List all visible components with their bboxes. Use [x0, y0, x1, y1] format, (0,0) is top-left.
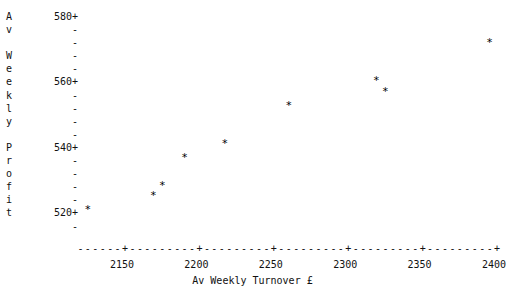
y-caption-char: i — [6, 193, 22, 206]
y-axis-caption: Av Weekly Profit — [6, 10, 22, 220]
x-tick-label: 2250 — [259, 258, 283, 272]
y-major-tick: 560+ — [30, 75, 78, 88]
y-major-tick: 520+ — [30, 206, 78, 219]
data-point: * — [372, 76, 381, 85]
y-caption-char: f — [6, 180, 22, 193]
x-tick-label: 2300 — [333, 258, 357, 272]
y-minor-tick: - — [30, 167, 78, 180]
y-caption-char: r — [6, 154, 22, 167]
y-minor-tick: - — [30, 49, 78, 62]
y-minor-tick: - — [30, 193, 78, 206]
y-minor-tick: - — [30, 180, 78, 193]
y-caption-char — [6, 36, 22, 49]
y-caption-char: v — [6, 23, 22, 36]
y-caption-char: k — [6, 89, 22, 102]
data-point: * — [220, 139, 229, 148]
data-point: * — [284, 101, 293, 110]
y-minor-tick: - — [30, 102, 78, 115]
data-point: * — [381, 87, 390, 96]
y-caption-char: l — [6, 102, 22, 115]
y-caption-char: t — [6, 206, 22, 219]
y-minor-tick: - — [30, 115, 78, 128]
y-major-tick: 580+ — [30, 10, 78, 23]
y-minor-tick: - — [30, 62, 78, 75]
y-axis-ticks: 580+----560+----540+----520+- — [30, 10, 78, 233]
y-caption-char: W — [6, 49, 22, 62]
x-axis-tick-labels: 215022002250230023502400 — [0, 258, 505, 272]
y-major-tick: 540+ — [30, 141, 78, 154]
y-caption-char: e — [6, 75, 22, 88]
y-minor-tick: - — [30, 220, 78, 233]
data-point: * — [158, 181, 167, 190]
x-tick-label: 2400 — [482, 258, 506, 272]
y-caption-char: e — [6, 62, 22, 75]
x-axis-caption: Av Weekly Turnover £ — [0, 274, 505, 287]
data-point: * — [485, 38, 494, 47]
y-caption-char: P — [6, 141, 22, 154]
x-tick-label: 2150 — [110, 258, 134, 272]
y-minor-tick: - — [30, 36, 78, 49]
y-minor-tick: - — [30, 154, 78, 167]
y-caption-char — [6, 128, 22, 141]
y-caption-char: A — [6, 10, 22, 23]
y-caption-char: o — [6, 167, 22, 180]
x-tick-label: 2200 — [184, 258, 208, 272]
y-minor-tick: - — [30, 128, 78, 141]
data-point: * — [83, 205, 92, 214]
y-caption-char: y — [6, 115, 22, 128]
x-tick-label: 2350 — [408, 258, 432, 272]
data-point: * — [180, 153, 189, 162]
y-minor-tick: - — [30, 23, 78, 36]
data-point: * — [149, 191, 158, 200]
x-axis-line: ------+---------+---------+---------+---… — [77, 243, 505, 255]
y-minor-tick: - — [30, 89, 78, 102]
